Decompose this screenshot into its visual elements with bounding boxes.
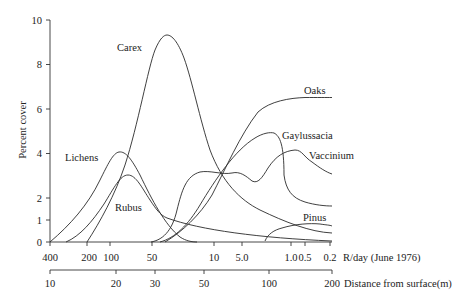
y-tick-10: 10 bbox=[32, 15, 43, 26]
dist-tick-10: 10 bbox=[45, 278, 56, 289]
dist-axis-label: Distance from surface(m) bbox=[344, 278, 452, 290]
label-gaylussacia: Gaylussacia bbox=[282, 130, 333, 141]
label-pinus: Pinus bbox=[303, 212, 326, 223]
chart: 10 8 6 4 2 1 0 Percent cover 400 200 100… bbox=[0, 0, 465, 300]
r-axis-label: R/day (June 1976) bbox=[343, 252, 421, 264]
r-tick-1: 1.0 bbox=[284, 252, 297, 263]
x-axis-rday: 400 200 100 50 10 5.0 1.0 0.5 0.2 R/day … bbox=[42, 242, 421, 264]
label-lichens: Lichens bbox=[65, 152, 98, 163]
y-axis-label: Percent cover bbox=[17, 101, 28, 159]
dist-tick-200: 200 bbox=[324, 278, 340, 289]
y-tick-1: 1 bbox=[37, 215, 42, 226]
label-vaccinium: Vaccinium bbox=[309, 150, 354, 161]
r-tick-5: 5.0 bbox=[235, 252, 248, 263]
r-tick-10: 10 bbox=[209, 252, 220, 263]
curve-gaylussacia bbox=[160, 133, 332, 242]
r-tick-0-5: 0.5 bbox=[298, 252, 311, 263]
dist-tick-100: 100 bbox=[261, 278, 277, 289]
r-tick-100: 100 bbox=[103, 252, 119, 263]
y-tick-4: 4 bbox=[37, 148, 43, 159]
r-tick-0-2: 0.2 bbox=[323, 252, 336, 263]
y-tick-2: 2 bbox=[37, 193, 42, 204]
y-tick-0: 0 bbox=[37, 237, 42, 248]
r-tick-50: 50 bbox=[147, 252, 158, 263]
dist-tick-20: 20 bbox=[111, 278, 122, 289]
dist-tick-50: 50 bbox=[199, 278, 210, 289]
y-tick-8: 8 bbox=[37, 59, 42, 70]
label-rubus: Rubus bbox=[115, 202, 142, 213]
r-tick-200: 200 bbox=[81, 252, 97, 263]
x-axis-distance: 10 20 30 50 100 200 Distance from surfac… bbox=[45, 270, 453, 290]
dist-tick-30: 30 bbox=[150, 278, 161, 289]
label-oaks: Oaks bbox=[304, 85, 326, 96]
label-carex: Carex bbox=[117, 42, 143, 53]
y-tick-6: 6 bbox=[37, 104, 42, 115]
curve-lichens bbox=[50, 152, 197, 242]
y-axis: 10 8 6 4 2 1 0 Percent cover bbox=[17, 15, 50, 248]
curve-rubus bbox=[66, 175, 332, 242]
r-tick-400: 400 bbox=[42, 252, 58, 263]
